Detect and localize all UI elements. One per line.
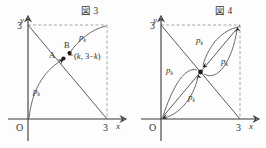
figure-3-panel: y x 3 3 O 図 3 A B (k, 3−k) pk pk	[0, 0, 133, 148]
origin-label: O	[149, 122, 156, 133]
curve-label-left-pk: pk	[165, 65, 174, 76]
point-A-dot	[61, 56, 65, 60]
point-B-label: B	[64, 40, 70, 50]
x-axis-label: x	[248, 121, 253, 131]
figure-4-panel: y x 3 3 O 図 4 pk pk pk pk	[133, 0, 266, 148]
pk-subscript: k	[84, 37, 87, 43]
curve-label-right-pk: pk	[220, 56, 229, 67]
figure-pair-container: y x 3 3 O 図 3 A B (k, 3−k) pk pk	[0, 0, 266, 148]
x-tick-3-label: 3	[103, 122, 108, 133]
figure-3-title: 図 3	[81, 6, 98, 16]
coordinate-label: (k, 3−k)	[74, 51, 101, 61]
pk-subscript: k	[193, 97, 196, 103]
point-B-dot	[67, 51, 71, 55]
curve-label-upper-pk: pk	[78, 32, 87, 43]
x-tick-3-label: 3	[236, 122, 241, 133]
curve-upper-pk	[69, 26, 106, 54]
coordinate-close-paren: )	[98, 51, 101, 61]
point-A-label: A	[49, 50, 56, 60]
figure-4-title: 図 4	[215, 6, 232, 16]
pk-subscript: k	[171, 70, 174, 76]
curve-center-to-corner-pk	[204, 30, 237, 76]
y-tick-3-label: 3	[17, 20, 22, 31]
figure-3-svg: y x 3 3 O 図 3 A B (k, 3−k) pk pk	[0, 0, 133, 148]
pk-subscript: k	[38, 91, 41, 97]
center-point-dot	[198, 70, 203, 75]
x-axis-label: x	[115, 121, 120, 131]
origin-label: O	[16, 122, 23, 133]
curve-label-lower-pk: pk	[32, 86, 41, 97]
pk-subscript: k	[201, 40, 204, 46]
y-tick-3-label: 3	[150, 20, 155, 31]
curve-label-top-pk: pk	[195, 35, 204, 46]
curve-label-bottom-pk: pk	[187, 92, 196, 103]
coordinate-comma-three-minus: , 3−	[81, 51, 95, 61]
figure-4-svg: y x 3 3 O 図 4 pk pk pk pk	[133, 0, 266, 148]
pk-subscript: k	[226, 61, 229, 67]
